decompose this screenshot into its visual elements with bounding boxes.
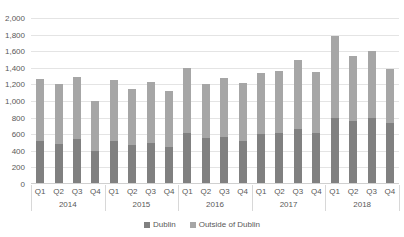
bar-stack[interactable] <box>368 51 376 184</box>
y-axis-tick-label: 600 <box>12 130 25 139</box>
bar-stack[interactable] <box>349 56 357 184</box>
bar-slot <box>307 18 325 184</box>
bar-slot <box>215 18 233 184</box>
bar-segment-dublin <box>294 129 302 184</box>
x-axis-tick-label: Q4 <box>381 185 399 198</box>
x-axis-tick-label: Q3 <box>289 185 307 198</box>
bar-stack[interactable] <box>128 89 136 184</box>
x-axis-tick-label: Q2 <box>197 185 215 198</box>
x-axis-tick-label: Q3 <box>362 185 380 198</box>
y-axis-tick-label: 1,600 <box>5 47 25 56</box>
bar-stack[interactable] <box>386 69 394 184</box>
x-axis-tick-label: Q1 <box>252 185 270 198</box>
bar-segment-dublin <box>55 144 63 184</box>
bar-slot <box>160 18 178 184</box>
bar-slot <box>362 18 380 184</box>
bar-segment-outside-of-dublin <box>110 80 118 141</box>
bar-segment-outside-of-dublin <box>183 68 191 133</box>
x-axis-tick-label: Q1 <box>31 185 49 198</box>
x-axis-year-label: 2014 <box>31 198 105 211</box>
bar-segment-dublin <box>275 133 283 184</box>
bars-layer <box>31 18 399 184</box>
bar-segment-dublin <box>349 121 357 184</box>
bar-segment-dublin <box>331 118 339 184</box>
bar-slot <box>326 18 344 184</box>
bar-segment-dublin <box>165 147 173 184</box>
bar-stack[interactable] <box>183 68 191 184</box>
bar-slot <box>197 18 215 184</box>
year-separator <box>31 185 32 211</box>
bar-segment-dublin <box>36 141 44 184</box>
bar-segment-dublin <box>147 143 155 184</box>
y-axis-tick-label: 800 <box>12 113 25 122</box>
y-axis-tick-label: 400 <box>12 146 25 155</box>
bar-segment-dublin <box>202 138 210 184</box>
bar-segment-dublin <box>183 133 191 184</box>
y-axis-tick-label: 0 <box>21 180 25 189</box>
x-axis-tick-label: Q4 <box>160 185 178 198</box>
bar-slot <box>49 18 67 184</box>
bar-stack[interactable] <box>294 60 302 184</box>
x-axis-tick-label: Q1 <box>326 185 344 198</box>
bar-segment-outside-of-dublin <box>331 36 339 117</box>
bar-stack[interactable] <box>36 79 44 184</box>
legend-swatch-icon <box>190 222 196 228</box>
y-axis-tick-label: 1,000 <box>5 97 25 106</box>
x-axis-tick-label: Q4 <box>233 185 251 198</box>
legend-item[interactable]: Dublin <box>144 220 176 229</box>
year-separator <box>325 185 326 211</box>
bar-stack[interactable] <box>220 78 228 184</box>
bar-stack[interactable] <box>239 83 247 184</box>
x-axis-tick-label: Q2 <box>270 185 288 198</box>
bar-stack[interactable] <box>147 82 155 184</box>
bar-segment-dublin <box>220 137 228 184</box>
y-axis-tick-label: 1,200 <box>5 80 25 89</box>
bar-stack[interactable] <box>331 36 339 184</box>
bar-segment-outside-of-dublin <box>36 79 44 140</box>
bar-segment-outside-of-dublin <box>128 89 136 145</box>
bar-slot <box>105 18 123 184</box>
x-axis-tick-label: Q1 <box>178 185 196 198</box>
x-axis-tick-label: Q3 <box>141 185 159 198</box>
x-axis-year-labels: 20142015201620172018 <box>31 198 399 211</box>
bar-segment-dublin <box>257 134 265 184</box>
bar-segment-outside-of-dublin <box>386 69 394 122</box>
bar-segment-outside-of-dublin <box>312 72 320 133</box>
bar-segment-outside-of-dublin <box>257 73 265 134</box>
bar-segment-outside-of-dublin <box>275 71 283 132</box>
legend-label: Dublin <box>153 220 176 229</box>
stacked-bar-chart: 2,0001,8001,6001,4001,2001,0008006004002… <box>0 0 404 237</box>
y-axis-tick-label: 200 <box>12 163 25 172</box>
bar-segment-outside-of-dublin <box>147 82 155 143</box>
bar-stack[interactable] <box>275 71 283 184</box>
bar-stack[interactable] <box>312 72 320 184</box>
plot-area <box>31 18 399 184</box>
bar-stack[interactable] <box>91 101 99 184</box>
y-axis-tick-label: 1,400 <box>5 63 25 72</box>
bar-slot <box>270 18 288 184</box>
bar-stack[interactable] <box>73 77 81 184</box>
legend-item[interactable]: Outside of Dublin <box>190 220 260 229</box>
bar-stack[interactable] <box>55 84 63 184</box>
bar-segment-outside-of-dublin <box>165 91 173 147</box>
bar-stack[interactable] <box>202 84 210 184</box>
bar-slot <box>178 18 196 184</box>
bar-segment-dublin <box>312 133 320 184</box>
x-axis-year-label: 2018 <box>325 198 399 211</box>
bar-stack[interactable] <box>110 80 118 184</box>
year-separator <box>252 185 253 211</box>
bar-segment-outside-of-dublin <box>91 101 99 151</box>
x-axis-quarter-labels: Q1Q2Q3Q4Q1Q2Q3Q4Q1Q2Q3Q4Q1Q2Q3Q4Q1Q2Q3Q4 <box>31 185 399 198</box>
bar-slot <box>123 18 141 184</box>
bar-segment-dublin <box>239 141 247 184</box>
chart-legend: DublinOutside of Dublin <box>0 220 404 229</box>
year-separator <box>178 185 179 211</box>
x-axis-year-label: 2016 <box>178 198 252 211</box>
bar-segment-outside-of-dublin <box>202 84 210 138</box>
bar-slot <box>86 18 104 184</box>
bar-stack[interactable] <box>257 73 265 184</box>
legend-label: Outside of Dublin <box>199 220 260 229</box>
x-axis-year-label: 2017 <box>252 198 326 211</box>
bar-slot <box>31 18 49 184</box>
bar-stack[interactable] <box>165 91 173 184</box>
